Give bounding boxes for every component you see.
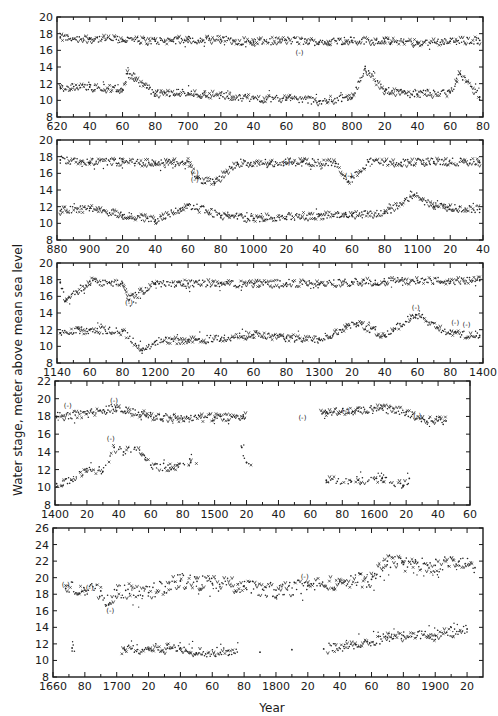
data-point: [275, 96, 277, 98]
data-point: [107, 333, 109, 335]
data-point-v: [296, 335, 299, 338]
data-point: [426, 421, 428, 423]
data-point: [103, 284, 105, 286]
data-point: [316, 94, 317, 95]
data-point: [273, 589, 275, 591]
data-point: [124, 584, 126, 586]
data-point: [393, 628, 394, 629]
data-point-v: [231, 167, 234, 170]
data-point: [377, 215, 379, 217]
data-point-anchor: [56, 483, 58, 485]
data-point: [135, 292, 137, 294]
data-point: [413, 45, 414, 46]
data-point: [387, 92, 389, 94]
data-point: [447, 634, 449, 636]
x-tick-label: 40: [112, 508, 126, 521]
x-tick-label: 20: [181, 366, 195, 379]
data-point: [208, 97, 210, 99]
data-point: [376, 643, 378, 645]
data-point-x: [293, 279, 296, 282]
data-point-x: [78, 211, 81, 214]
data-point: [69, 303, 70, 304]
data-point-x: [392, 37, 395, 40]
data-point: [456, 78, 457, 79]
data-point: [81, 290, 83, 292]
data-point-x: [61, 211, 64, 214]
data-point: [205, 653, 207, 655]
data-point-anchor: [286, 337, 288, 339]
data-point: [333, 643, 335, 645]
data-point-v: [68, 159, 71, 162]
data-point: [163, 459, 164, 460]
data-point: [88, 205, 90, 207]
data-point: [390, 637, 392, 639]
data-point: [259, 333, 261, 335]
data-point: [290, 219, 292, 221]
data-point: [168, 214, 170, 216]
annotation-uncertain: (-): [295, 49, 303, 57]
data-point-v: [230, 42, 233, 45]
data-point-x: [80, 208, 83, 211]
data-point: [375, 329, 377, 331]
data-point: [349, 216, 351, 218]
data-point: [252, 95, 254, 97]
data-point: [433, 90, 435, 92]
data-point: [345, 325, 346, 326]
data-point-v: [368, 40, 371, 43]
data-point: [84, 293, 85, 294]
data-point: [308, 43, 310, 45]
data-point-anchor: [220, 338, 222, 340]
data-point-x: [78, 288, 81, 291]
data-point: [335, 286, 337, 288]
data-point-v: [373, 43, 376, 46]
data-point-x: [345, 646, 348, 649]
data-point: [349, 325, 351, 327]
data-point: [382, 281, 384, 283]
data-point: [408, 483, 410, 485]
data-point: [435, 277, 437, 279]
data-point-anchor: [367, 161, 369, 163]
data-point-x: [177, 418, 180, 421]
data-point: [94, 163, 96, 165]
data-point: [344, 280, 345, 281]
data-point-x: [457, 330, 460, 333]
data-point: [337, 650, 339, 652]
data-point: [219, 290, 220, 291]
data-point: [216, 647, 218, 649]
data-point: [252, 220, 254, 222]
data-point-v: [110, 602, 113, 605]
data-point: [111, 333, 113, 335]
data-point: [424, 631, 426, 633]
data-point-v: [325, 211, 328, 214]
data-point-v: [126, 69, 129, 72]
annotation-uncertain: (-): [110, 397, 118, 405]
data-point: [110, 158, 112, 160]
data-point: [337, 211, 338, 212]
data-point-v: [440, 563, 443, 566]
data-point-x: [260, 160, 263, 163]
data-point: [296, 589, 298, 591]
data-point: [125, 453, 127, 455]
data-point: [152, 468, 154, 470]
data-point: [220, 652, 222, 654]
data-point-anchor: [122, 214, 124, 216]
data-point: [92, 331, 94, 333]
data-point: [374, 479, 376, 481]
data-point: [107, 37, 109, 39]
data-point-v: [354, 216, 357, 219]
data-point: [238, 163, 240, 165]
data-point-anchor: [459, 73, 461, 75]
data-point: [388, 574, 389, 575]
data-point: [186, 207, 188, 209]
data-point-x: [61, 39, 64, 42]
data-point: [94, 89, 96, 91]
data-point-v: [249, 279, 252, 282]
data-point: [283, 336, 285, 338]
data-point-anchor: [89, 329, 91, 331]
data-point: [67, 36, 69, 38]
data-point: [114, 85, 116, 87]
data-point: [459, 42, 461, 44]
data-point: [157, 649, 159, 651]
data-point: [288, 279, 290, 281]
data-point-v: [210, 94, 213, 97]
